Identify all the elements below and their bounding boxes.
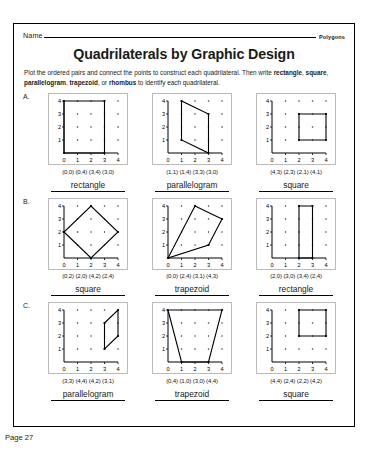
svg-text:4: 4 — [266, 203, 269, 209]
svg-text:4: 4 — [324, 261, 327, 267]
svg-text:4: 4 — [220, 261, 223, 267]
problem-cell: 011223344(0,4) (1,0) (3,0) (4,4)trapezoi… — [144, 302, 240, 401]
svg-text:2: 2 — [297, 157, 300, 163]
svg-text:4: 4 — [324, 366, 327, 372]
problem-rows: A.011223344(0,0) (0,4) (3,4) (3,0)rectan… — [14, 93, 354, 401]
svg-text:2: 2 — [162, 333, 165, 339]
ordered-pairs: (1,1) (1,4) (3,3) (3,0) — [166, 168, 218, 175]
coordinate-grid[interactable]: 011223344 — [152, 93, 232, 165]
svg-text:2: 2 — [58, 333, 61, 339]
svg-text:1: 1 — [284, 157, 287, 163]
svg-text:4: 4 — [266, 307, 269, 313]
svg-text:4: 4 — [116, 366, 119, 372]
ordered-pairs: (0,2) (2,0) (4,2) (2,4) — [62, 272, 114, 279]
coordinate-grid[interactable]: 011223344 — [256, 93, 336, 165]
svg-text:2: 2 — [162, 124, 165, 130]
problem-cells: 011223344(0,0) (0,4) (3,4) (3,0)rectangl… — [22, 93, 354, 192]
name-write-in-line[interactable] — [44, 36, 316, 38]
svg-text:4: 4 — [266, 98, 269, 104]
row-letter: A. — [23, 93, 30, 100]
instructions: Plot the ordered pairs and connect the p… — [14, 62, 354, 87]
answer-blank[interactable]: square — [259, 389, 333, 401]
answer-blank[interactable]: rectangle — [259, 284, 333, 296]
instructions-sep-2: , — [327, 69, 329, 76]
svg-text:3: 3 — [162, 111, 165, 117]
answer-blank[interactable]: trapezoid — [155, 389, 229, 401]
svg-text:1: 1 — [162, 242, 165, 248]
svg-text:4: 4 — [58, 307, 61, 313]
svg-text:4: 4 — [116, 157, 119, 163]
ordered-pairs: (0,0) (0,4) (3,4) (3,0) — [62, 168, 114, 175]
problem-cell: 011223344(4,4) (2,4) (2,2) (4,2)square — [248, 302, 344, 401]
svg-text:1: 1 — [58, 242, 61, 248]
svg-text:3: 3 — [266, 216, 269, 222]
problem-cell: 011223344(1,1) (1,4) (3,3) (3,0)parallel… — [144, 93, 240, 192]
svg-text:3: 3 — [266, 111, 269, 117]
svg-text:0: 0 — [270, 366, 273, 372]
problem-cell: 011223344(0,2) (2,0) (4,2) (2,4)square — [40, 198, 136, 297]
svg-text:3: 3 — [266, 320, 269, 326]
svg-text:1: 1 — [180, 157, 183, 163]
svg-text:0: 0 — [166, 366, 169, 372]
svg-text:1: 1 — [162, 346, 165, 352]
ordered-pairs: (4,4) (2,4) (2,2) (4,2) — [270, 377, 322, 384]
svg-text:2: 2 — [89, 157, 92, 163]
svg-text:4: 4 — [58, 203, 61, 209]
coordinate-grid[interactable]: 011223344 — [152, 302, 232, 374]
svg-text:4: 4 — [162, 307, 165, 313]
svg-text:2: 2 — [266, 229, 269, 235]
svg-text:2: 2 — [193, 157, 196, 163]
name-row: Name Polygons — [14, 24, 354, 40]
svg-text:1: 1 — [266, 242, 269, 248]
svg-text:0: 0 — [62, 366, 65, 372]
svg-text:1: 1 — [58, 346, 61, 352]
instructions-text-1: Plot the ordered pairs and connect the p… — [24, 69, 274, 76]
svg-text:3: 3 — [103, 157, 106, 163]
coordinate-grid[interactable]: 011223344 — [256, 198, 336, 270]
problem-row: C.011223344(3,3) (4,4) (4,2) (3,1)parall… — [14, 302, 354, 401]
svg-text:2: 2 — [162, 229, 165, 235]
svg-text:0: 0 — [62, 261, 65, 267]
svg-text:1: 1 — [162, 137, 165, 143]
svg-text:3: 3 — [311, 157, 314, 163]
svg-text:2: 2 — [193, 366, 196, 372]
svg-text:4: 4 — [220, 366, 223, 372]
svg-text:1: 1 — [180, 261, 183, 267]
page-title: Quadrilaterals by Graphic Design — [14, 46, 354, 62]
problem-cell: 011223344(2,0) (3,0) (3,4) (2,4)rectangl… — [248, 198, 344, 297]
answer-blank[interactable]: rectangle — [51, 180, 125, 192]
term-parallelogram: parallelogram — [24, 79, 66, 86]
coordinate-grid[interactable]: 011223344 — [48, 93, 128, 165]
coordinate-grid[interactable]: 011223344 — [256, 302, 336, 374]
ordered-pairs: (0,4) (1,0) (3,0) (4,4) — [166, 377, 218, 384]
svg-text:2: 2 — [297, 366, 300, 372]
svg-text:3: 3 — [162, 216, 165, 222]
ordered-pairs: (0,0) (2,4) (3,1) (4,3) — [166, 272, 218, 279]
svg-text:2: 2 — [266, 124, 269, 130]
answer-blank[interactable]: parallelogram — [155, 180, 229, 192]
page-number: Page 27 — [5, 433, 33, 442]
answer-blank[interactable]: square — [259, 180, 333, 192]
coordinate-grid[interactable]: 011223344 — [152, 198, 232, 270]
answer-blank[interactable]: trapezoid — [155, 284, 229, 296]
svg-text:0: 0 — [166, 157, 169, 163]
problem-cell: 011223344(4,3) (2,3) (2,1) (4,1)square — [248, 93, 344, 192]
coordinate-grid[interactable]: 011223344 — [48, 198, 128, 270]
svg-text:2: 2 — [193, 261, 196, 267]
svg-text:1: 1 — [284, 366, 287, 372]
coordinate-grid[interactable]: 011223344 — [48, 302, 128, 374]
svg-text:3: 3 — [207, 366, 210, 372]
problem-cells: 011223344(3,3) (4,4) (4,2) (3,1)parallel… — [22, 302, 354, 401]
svg-text:2: 2 — [89, 366, 92, 372]
svg-text:1: 1 — [58, 137, 61, 143]
svg-text:3: 3 — [311, 366, 314, 372]
problem-cell: 011223344(0,0) (2,4) (3,1) (4,3)trapezoi… — [144, 198, 240, 297]
svg-text:3: 3 — [207, 157, 210, 163]
svg-text:2: 2 — [58, 229, 61, 235]
answer-blank[interactable]: square — [51, 284, 125, 296]
svg-text:1: 1 — [76, 366, 79, 372]
problem-cells: 011223344(0,2) (2,0) (4,2) (2,4)square01… — [22, 198, 354, 297]
svg-text:2: 2 — [266, 333, 269, 339]
answer-blank[interactable]: parallelogram — [51, 389, 125, 401]
svg-text:1: 1 — [266, 346, 269, 352]
